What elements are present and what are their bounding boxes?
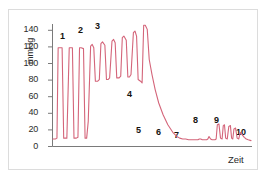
blood-pressure-chart-figure: mmHg 0 20 40 60 80 100 120 140 Zeit 1 2 … [0, 0, 266, 179]
plot-area [0, 0, 266, 179]
pressure-waveform-trace [53, 25, 251, 140]
axis-lines [53, 24, 253, 147]
y-axis-ticks [48, 30, 53, 146]
